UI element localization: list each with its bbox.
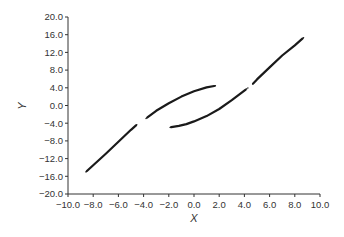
x-axis-ticks: −10.0−8.0−6.0−4.0−2.00.02.04.06.08.010.0 [56, 194, 329, 210]
x-tick-label: −2.0 [159, 199, 178, 210]
x-tick-label: 4.0 [238, 199, 251, 210]
data-point [247, 87, 248, 88]
x-axis-label: X [189, 212, 198, 224]
data-point [85, 171, 86, 172]
y-tick-label: 8.0 [50, 64, 63, 75]
data-point [145, 118, 146, 119]
branch-1-curve [147, 86, 214, 117]
x-tick-label: −4.0 [134, 199, 153, 210]
x-tick-label: 2.0 [213, 199, 226, 210]
data-point [169, 127, 170, 128]
y-axis-label: Y [16, 102, 28, 110]
scatter-chart: 20.016.012.08.04.00.0−4.0−8.0−12.0−16.0−… [0, 0, 344, 237]
y-tick-label: −8.0 [44, 135, 63, 146]
x-tick-label: −8.0 [84, 199, 103, 210]
x-tick-label: 0.0 [187, 199, 200, 210]
y-tick-label: 0.0 [50, 100, 63, 111]
x-tick-label: −10.0 [56, 199, 80, 210]
data-series [85, 37, 304, 173]
y-tick-label: 16.0 [45, 29, 64, 40]
y-tick-label: −12.0 [39, 153, 63, 164]
axes [68, 17, 320, 194]
x-tick-label: 6.0 [263, 199, 276, 210]
branch-1-curve [87, 125, 136, 171]
x-tick-label: 8.0 [288, 199, 301, 210]
data-point [136, 124, 137, 125]
data-point [252, 83, 253, 84]
y-tick-label: 20.0 [45, 11, 64, 22]
y-tick-label: −4.0 [44, 118, 63, 129]
y-axis-ticks: 20.016.012.08.04.00.0−4.0−8.0−12.0−16.0−… [39, 11, 68, 199]
y-tick-label: 4.0 [50, 82, 63, 93]
x-tick-label: −6.0 [109, 199, 128, 210]
branch-2-curve [253, 39, 302, 84]
data-point [303, 37, 304, 38]
y-tick-label: 12.0 [45, 47, 64, 58]
x-tick-label: 10.0 [311, 199, 330, 210]
data-point [215, 85, 216, 86]
y-tick-label: −20.0 [39, 188, 63, 199]
y-tick-label: −16.0 [39, 171, 63, 182]
